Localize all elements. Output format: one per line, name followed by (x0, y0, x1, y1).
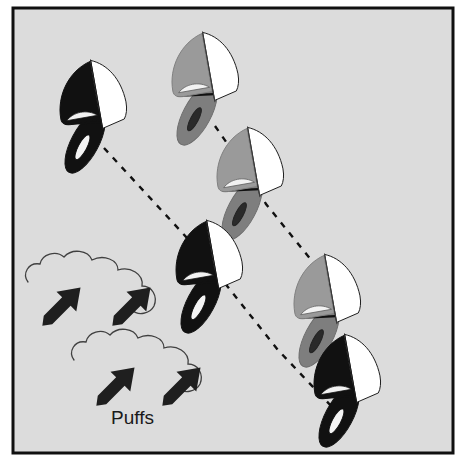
puffs-label: Puffs (111, 407, 154, 428)
diagram-canvas: Puffs (0, 0, 461, 461)
sailing-diagram: Puffs (0, 0, 461, 461)
